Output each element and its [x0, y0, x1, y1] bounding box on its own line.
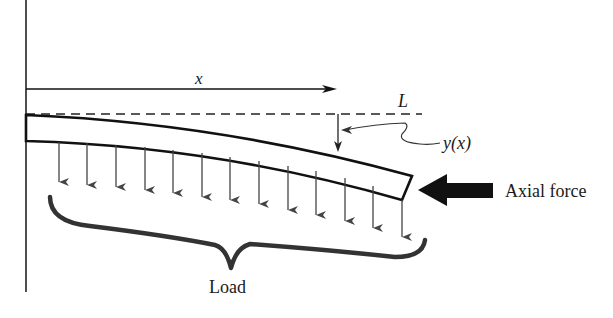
deflection-label: y(x): [441, 133, 471, 154]
length-label: L: [397, 91, 408, 111]
axial-force-arrow: [418, 174, 493, 206]
load-brace: [50, 197, 425, 268]
deflection-leader: [341, 123, 440, 144]
beam-diagram: x L y(x) Axial force Load: [0, 0, 613, 318]
axial-force-label: Axial force: [505, 181, 586, 201]
x-label: x: [194, 69, 203, 88]
load-label: Load: [209, 277, 246, 297]
x-dimension-arrow: [26, 85, 337, 93]
deflection-arrow: [334, 114, 342, 152]
